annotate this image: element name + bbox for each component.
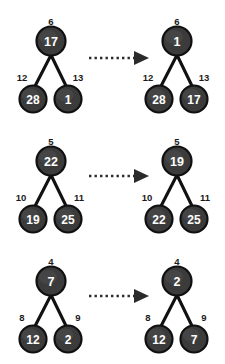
row-3-before-tree: 4 7 8 12 9 2 (19, 256, 81, 353)
index-label-right: 11 (200, 192, 211, 203)
row-2: 5 22 10 19 11 25 (16, 136, 211, 233)
node-value: 1 (174, 35, 181, 49)
arrow-head-icon (134, 169, 149, 183)
row-2-after-tree: 5 19 10 22 11 25 (142, 136, 211, 233)
node-value: 1 (65, 93, 72, 107)
node-value: 2 (174, 275, 181, 289)
index-label-root: 5 (48, 136, 54, 147)
index-label-root: 6 (174, 16, 179, 27)
index-label-root: 4 (174, 256, 180, 267)
node-value: 22 (44, 155, 58, 169)
node-value: 19 (26, 213, 40, 227)
node-value: 25 (61, 213, 75, 227)
node-value: 17 (187, 93, 201, 107)
index-label-left: 12 (143, 72, 154, 83)
node-value: 17 (44, 35, 58, 49)
node-value: 12 (152, 333, 166, 347)
row-1: 6 17 12 28 13 1 (17, 16, 210, 113)
node-right: 1 (55, 86, 82, 113)
index-label-right: 13 (73, 72, 84, 83)
row-3-after-tree: 4 2 8 12 9 7 (145, 256, 207, 353)
index-label-root: 4 (48, 256, 54, 267)
index-label-root: 5 (174, 136, 180, 147)
node-value: 7 (48, 275, 55, 289)
row-3-transform-arrow (89, 289, 149, 303)
row-3: 4 7 8 12 9 2 (19, 256, 207, 353)
node-root: 19 (163, 147, 192, 176)
node-right: 25 (181, 206, 208, 233)
node-left: 12 (146, 326, 173, 353)
index-label-right: 9 (75, 312, 80, 323)
node-value: 12 (26, 333, 40, 347)
index-label-left: 10 (142, 192, 153, 203)
index-label-right: 9 (201, 312, 206, 323)
node-root: 2 (163, 267, 192, 296)
node-left: 28 (146, 86, 173, 113)
index-label-left: 8 (19, 312, 24, 323)
row-1-after-tree: 6 1 12 28 13 17 (143, 16, 210, 113)
index-label-root: 6 (48, 16, 53, 27)
node-left: 12 (20, 326, 47, 353)
index-label-left: 12 (17, 72, 28, 83)
node-root: 7 (37, 267, 66, 296)
row-2-transform-arrow (89, 169, 149, 183)
node-value: 28 (26, 93, 40, 107)
row-2-before-tree: 5 22 10 19 11 25 (16, 136, 85, 233)
arrow-head-icon (134, 289, 149, 303)
arrow-head-icon (134, 51, 149, 65)
node-left: 19 (20, 206, 47, 233)
index-label-left: 8 (145, 312, 150, 323)
node-value: 22 (152, 213, 166, 227)
binary-heap-swap-diagram: 6 17 12 28 13 1 (0, 0, 225, 364)
node-value: 7 (191, 333, 198, 347)
index-label-right: 11 (74, 192, 85, 203)
node-right: 2 (55, 326, 82, 353)
node-right: 17 (181, 86, 208, 113)
node-left: 28 (20, 86, 47, 113)
node-value: 2 (65, 333, 72, 347)
index-label-right: 13 (199, 72, 210, 83)
row-1-before-tree: 6 17 12 28 13 1 (17, 16, 84, 113)
row-1-transform-arrow (89, 51, 149, 65)
index-label-left: 10 (16, 192, 27, 203)
node-root: 17 (37, 27, 66, 56)
node-root: 1 (163, 27, 192, 56)
node-value: 25 (187, 213, 201, 227)
node-root: 22 (37, 147, 66, 176)
node-left: 22 (146, 206, 173, 233)
node-value: 28 (152, 93, 166, 107)
node-value: 19 (170, 155, 184, 169)
node-right: 7 (181, 326, 208, 353)
node-right: 25 (55, 206, 82, 233)
